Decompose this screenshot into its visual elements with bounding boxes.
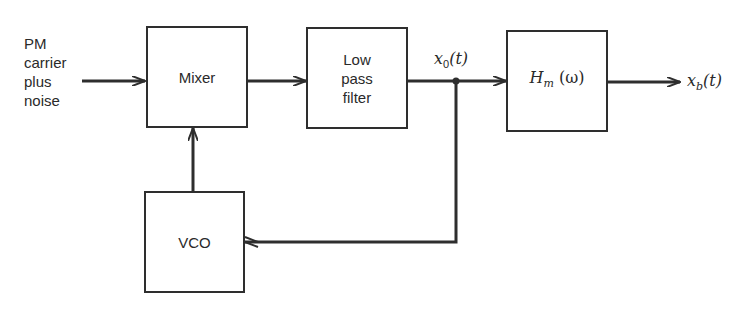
low-pass-filter-block: Low pass filter: [306, 27, 408, 129]
hm-label: Hm (ω): [529, 68, 584, 93]
input-label-line: carrier: [24, 53, 67, 72]
x0-signal-label: x0(t): [434, 49, 468, 70]
input-label-line: noise: [24, 91, 67, 110]
mixer-block: Mixer: [146, 26, 248, 128]
vco-block: VCO: [144, 191, 245, 293]
input-label: PM carrier plus noise: [24, 34, 67, 110]
vco-label: VCO: [178, 233, 211, 252]
hm-filter-block: Hm (ω): [506, 30, 608, 132]
junction-dot: [453, 78, 460, 85]
input-label-line: plus: [24, 72, 67, 91]
input-label-line: PM: [24, 34, 67, 53]
xb-signal-label: xb(t): [687, 71, 722, 93]
lpf-label-line: pass: [341, 69, 373, 88]
mixer-label: Mixer: [179, 68, 216, 87]
lpf-label-line: filter: [341, 88, 373, 107]
lpf-label-line: Low: [341, 50, 373, 69]
